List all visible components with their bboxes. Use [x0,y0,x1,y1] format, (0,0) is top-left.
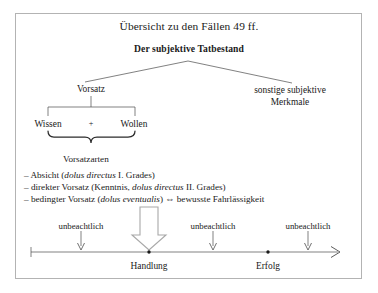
timeline-label-handlung: Handlung [131,261,168,271]
list-text-post: II. Grades) [184,182,226,192]
list-text-post: I. Grades) [116,170,155,180]
node-sonstige-subjektive-merkmale: sonstige subjektive Merkmale [230,84,350,108]
list-item: – bedingter Vorsatz (dolus eventualis) ⇔… [24,194,264,204]
node-sonstige-line1: sonstige subjektive [254,85,326,95]
timeline-label-unbeachtlich: unbeachtlich [286,222,331,232]
timeline-label-unbeachtlich: unbeachtlich [59,222,104,232]
node-wollen: Wollen [121,119,148,129]
list-item: – Absicht (dolus directus I. Grades) [24,170,155,180]
list-text-italic: dolus eventualis [100,194,159,204]
vorsatzarten-heading: Vorsatzarten [63,155,109,165]
diagram-page: Übersicht zu den Fällen 49 ff. Der subje… [0,0,378,293]
node-vorsatz: Vorsatz [77,84,105,94]
node-plus-operator: + [89,120,94,129]
timeline-label-erfolg: Erfolg [256,261,280,271]
list-text-pre: direkter Vorsatz (Kenntnis, [29,182,133,192]
list-item: – direkter Vorsatz (Kenntnis, dolus dire… [24,182,226,192]
node-wissen: Wissen [34,119,61,129]
list-text-pre: bedingter Vorsatz ( [29,194,101,204]
page-title: Übersicht zu den Fällen 49 ff. [120,20,259,32]
node-sonstige-line2: Merkmale [271,97,310,107]
list-text-italic: dolus directus [64,170,115,180]
list-text-italic: dolus directus [132,182,183,192]
list-text-post: ) ⇔ bewusste Fahrlässigkeit [160,194,264,204]
page-subtitle: Der subjektive Tatbestand [134,44,244,54]
list-text-pre: Absicht ( [29,170,65,180]
timeline-label-unbeachtlich: unbeachtlich [191,222,236,232]
